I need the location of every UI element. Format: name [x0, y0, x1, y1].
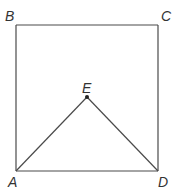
label-e: E — [82, 80, 92, 96]
label-d: D — [158, 174, 168, 190]
label-b: B — [5, 8, 14, 24]
segment-ae — [16, 97, 87, 171]
label-c: C — [161, 8, 172, 24]
segment-ed — [87, 97, 158, 171]
geometry-diagram: B C A D E — [0, 0, 180, 193]
label-a: A — [7, 174, 17, 190]
